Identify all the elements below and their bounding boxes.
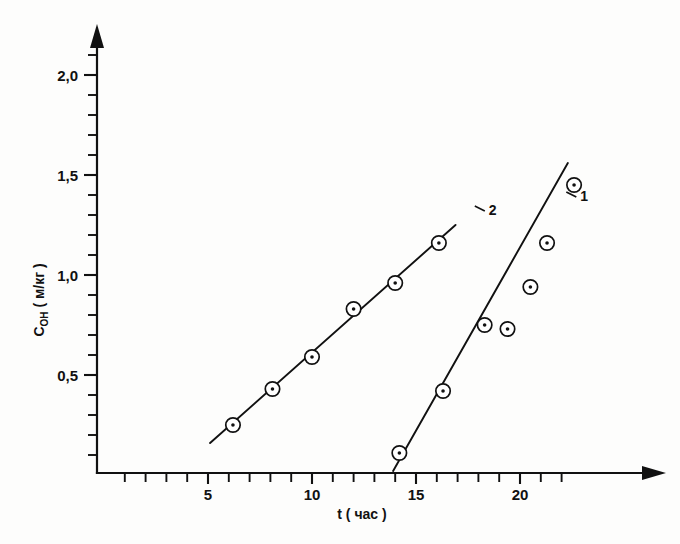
svg-text:COH ( м/кг ): COH ( м/кг )	[31, 263, 50, 336]
y-axis-arrow-icon	[90, 24, 104, 48]
series-label-2: 2	[489, 202, 497, 218]
chart-figure: 5101520 0,51,01,52,0 COH ( м/кг ) t ( ча…	[0, 0, 680, 544]
data-point-marker	[477, 318, 491, 332]
data-point-marker	[305, 350, 319, 364]
x-axis-title: t ( час )	[337, 506, 386, 522]
x-tick-label: 20	[512, 486, 529, 503]
marker-center-dot	[398, 451, 402, 455]
y-axis-title: COH ( м/кг )	[31, 263, 50, 336]
data-point-marker	[265, 382, 279, 396]
marker-center-dot	[441, 389, 445, 393]
data-point-marker	[226, 418, 240, 432]
marker-center-dot	[483, 323, 487, 327]
x-axis-tick-labels: 5101520	[204, 486, 529, 503]
marker-center-dot	[231, 423, 235, 427]
axes-group	[90, 24, 666, 480]
data-point-marker	[540, 236, 554, 250]
kinetics-scatter-chart: 5101520 0,51,01,52,0 COH ( м/кг ) t ( ча…	[0, 0, 680, 544]
x-axis-ticks	[125, 473, 562, 484]
y-tick-label: 1,5	[57, 167, 78, 184]
marker-center-dot	[506, 327, 510, 331]
data-point-marker	[432, 236, 446, 250]
data-point-marker	[500, 322, 514, 336]
y-axis-title-main: C	[31, 326, 47, 336]
data-point-marker	[523, 280, 537, 294]
marker-center-dot	[271, 387, 275, 391]
y-axis-title-units: ( м/кг )	[31, 263, 47, 307]
data-point-marker	[392, 446, 406, 460]
data-point-marker	[388, 276, 402, 290]
y-tick-label: 0,5	[57, 367, 78, 384]
data-series-layer	[210, 163, 581, 471]
marker-center-dot	[352, 307, 356, 311]
data-point-marker	[567, 178, 581, 192]
y-axis-ticks	[84, 55, 97, 455]
series-fit-line	[210, 225, 455, 443]
x-tick-label: 5	[204, 486, 212, 503]
series-2	[210, 225, 455, 443]
x-tick-label: 15	[408, 486, 425, 503]
data-point-marker	[436, 384, 450, 398]
marker-center-dot	[529, 285, 533, 289]
marker-center-dot	[545, 241, 549, 245]
series-label-1: 1	[580, 188, 588, 204]
series-1	[392, 163, 581, 471]
marker-center-dot	[310, 355, 314, 359]
x-axis-arrow-icon	[642, 466, 666, 480]
marker-center-dot	[572, 183, 576, 187]
marker-center-dot	[393, 281, 397, 285]
data-point-marker	[346, 302, 360, 316]
y-axis-tick-labels: 0,51,01,52,0	[57, 67, 78, 384]
marker-center-dot	[437, 241, 441, 245]
x-tick-label: 10	[304, 486, 321, 503]
series-label-leader-2	[475, 206, 485, 211]
y-tick-label: 1,0	[57, 267, 78, 284]
y-axis-title-subscript: OH	[39, 311, 50, 326]
y-tick-label: 2,0	[57, 67, 78, 84]
